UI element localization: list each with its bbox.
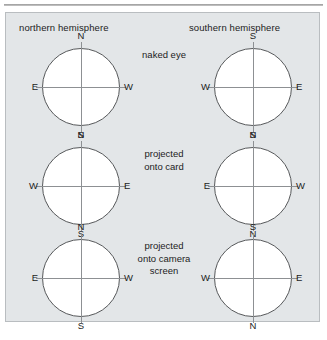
compass-label-top: N xyxy=(42,31,120,41)
compass-label-left: W xyxy=(196,273,210,283)
compass-label-left: W xyxy=(24,181,38,191)
compass-diagram-southern-naked-eye: S N W E xyxy=(214,48,292,126)
compass-horizontal-axis xyxy=(208,278,298,279)
figure-panel: northern hemisphere southern hemisphere … xyxy=(5,12,320,322)
compass-label-right: E xyxy=(296,82,310,92)
row-label-projected-onto-card: projected onto card xyxy=(116,148,212,173)
compass-horizontal-axis xyxy=(36,186,126,187)
compass-label-right: E xyxy=(124,181,138,191)
compass-label-left: E xyxy=(196,181,210,191)
top-divider-rule xyxy=(4,4,323,6)
compass-horizontal-axis xyxy=(36,87,126,88)
compass-label-bottom: S xyxy=(42,321,120,331)
compass-diagram-northern-projected-camera-screen: N S E W xyxy=(42,239,120,317)
compass-diagram-southern-projected-camera-screen: S N W E xyxy=(214,239,292,317)
compass-label-left: E xyxy=(24,82,38,92)
compass-label-right: W xyxy=(124,82,138,92)
compass-label-top: N xyxy=(42,222,120,232)
compass-label-bottom: N xyxy=(214,321,292,331)
compass-label-top: S xyxy=(214,222,292,232)
compass-horizontal-axis xyxy=(208,186,298,187)
compass-diagram-southern-projected-card: S N E W xyxy=(214,147,292,225)
compass-label-right: W xyxy=(124,273,138,283)
compass-label-left: E xyxy=(24,273,38,283)
compass-label-top: S xyxy=(214,130,292,140)
row-label-naked-eye: naked eye xyxy=(116,49,212,62)
compass-label-left: W xyxy=(196,82,210,92)
compass-diagram-northern-projected-card: N S W E xyxy=(42,147,120,225)
compass-horizontal-axis xyxy=(208,87,298,88)
compass-label-right: W xyxy=(296,181,310,191)
compass-horizontal-axis xyxy=(36,278,126,279)
compass-label-top: S xyxy=(214,31,292,41)
compass-label-right: E xyxy=(296,273,310,283)
compass-diagram-northern-naked-eye: N S E W xyxy=(42,48,120,126)
compass-label-top: N xyxy=(42,130,120,140)
